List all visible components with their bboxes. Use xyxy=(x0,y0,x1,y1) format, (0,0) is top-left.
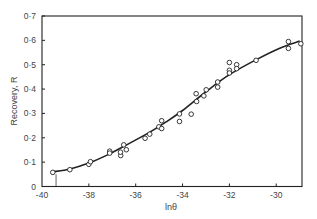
y-tick-label: 0·5 xyxy=(24,60,37,70)
data-point xyxy=(50,170,55,175)
y-tick-label: 0·2 xyxy=(24,133,37,143)
data-point xyxy=(286,46,291,51)
data-point xyxy=(143,136,148,141)
y-tick-label: 0·1 xyxy=(24,157,37,167)
fitted-curve xyxy=(53,41,300,172)
data-point xyxy=(124,147,129,152)
y-tick-label: 0·3 xyxy=(24,108,37,118)
data-point xyxy=(121,143,126,148)
y-tick-label: 0·4 xyxy=(24,84,37,94)
plot-frame xyxy=(42,16,302,187)
data-point xyxy=(177,112,182,117)
data-point xyxy=(189,112,194,117)
data-point xyxy=(234,66,239,71)
data-point xyxy=(286,39,291,44)
x-tick-label: -40 xyxy=(36,190,49,200)
data-point xyxy=(88,159,93,164)
data-point xyxy=(227,71,232,76)
x-axis-ticks: -40-38-36-34-32-30 xyxy=(36,184,283,200)
data-point xyxy=(204,88,209,93)
data-point xyxy=(118,150,123,155)
data-point xyxy=(194,99,199,104)
data-point xyxy=(215,80,220,85)
data-point xyxy=(107,151,112,156)
x-axis-label: lnθ xyxy=(165,202,177,212)
data-point xyxy=(159,118,164,123)
data-point xyxy=(202,94,207,99)
data-point xyxy=(194,91,199,96)
y-tick-label: 0·7 xyxy=(24,11,37,21)
data-point xyxy=(177,119,182,124)
data-point xyxy=(254,58,259,63)
data-points xyxy=(50,39,303,174)
data-point xyxy=(147,132,152,137)
data-point xyxy=(227,60,232,65)
data-point xyxy=(159,126,164,131)
y-tick-label: 0·6 xyxy=(24,35,37,45)
data-point xyxy=(68,167,73,172)
chart: 00·10·20·30·40·50·60·7 -40-38-36-34-32-3… xyxy=(0,0,317,219)
x-tick-label: -30 xyxy=(270,190,283,200)
x-tick-label: -36 xyxy=(130,190,143,200)
data-point xyxy=(215,85,220,90)
data-point xyxy=(299,41,304,46)
x-tick-label: -38 xyxy=(83,190,96,200)
x-tick-label: -32 xyxy=(223,190,236,200)
x-tick-label: -34 xyxy=(176,190,189,200)
y-axis-label: Recovery, R xyxy=(9,76,19,125)
